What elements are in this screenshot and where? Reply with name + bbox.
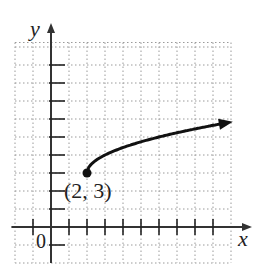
start-point-dot — [83, 169, 92, 178]
point-label: (2, 3) — [64, 180, 112, 202]
curve-arrowhead-icon — [218, 119, 233, 130]
y-axis-label: y — [30, 18, 40, 40]
function-curve — [87, 123, 226, 173]
x-axis-label: x — [238, 228, 248, 250]
axes — [11, 23, 252, 263]
origin-label: 0 — [36, 231, 46, 251]
